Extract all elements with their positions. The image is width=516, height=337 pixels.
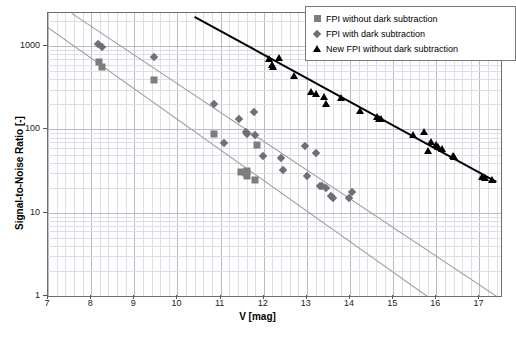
- data-point-series-0: [99, 64, 106, 71]
- data-point-series-0: [254, 142, 261, 149]
- gridline-y-major: [48, 129, 501, 130]
- gridline-y-minor: [48, 71, 501, 72]
- data-point-series-2: [356, 107, 364, 114]
- data-point-series-0: [244, 172, 251, 179]
- x-axis-tick-label: 15: [387, 298, 397, 308]
- data-point-series-2: [420, 128, 428, 135]
- gridline-y-minor: [48, 79, 501, 80]
- data-point-series-2: [275, 54, 283, 61]
- gridline-y-minor: [48, 271, 501, 272]
- x-axis-tick-label: 7: [44, 298, 49, 308]
- gridline-y-minor: [48, 133, 501, 134]
- y-axis-tick-label: 100: [0, 123, 40, 133]
- square-marker-icon: [311, 15, 323, 22]
- data-point-series-2: [269, 63, 277, 70]
- x-axis-tick-mark: [306, 295, 307, 299]
- legend-label: FPI without dark subtraction: [326, 14, 438, 24]
- x-axis-tick-mark: [392, 295, 393, 299]
- x-axis-tick-mark: [133, 295, 134, 299]
- legend-item-new-fpi-without-dark: New FPI without dark subtraction: [311, 41, 510, 56]
- gridline-y-minor: [48, 163, 501, 164]
- x-axis-label: V [mag]: [0, 311, 515, 322]
- data-point-series-2: [290, 72, 298, 79]
- gridline-y-minor: [48, 104, 501, 105]
- gridline-y-minor: [48, 155, 501, 156]
- legend-label: New FPI without dark subtraction: [326, 44, 458, 54]
- legend-item-fpi-with-dark: FPI with dark subtraction: [311, 26, 510, 41]
- data-point-series-2: [377, 115, 385, 122]
- x-axis-tick-label: 16: [430, 298, 440, 308]
- gridline-y-minor: [48, 90, 501, 91]
- x-axis-tick-mark: [90, 295, 91, 299]
- x-axis-tick-mark: [47, 295, 48, 299]
- data-point-series-0: [211, 131, 218, 138]
- gridline-y-minor: [48, 221, 501, 222]
- data-point-series-2: [438, 145, 446, 152]
- data-point-series-2: [312, 90, 320, 97]
- gridline-y-minor: [48, 238, 501, 239]
- data-point-series-2: [337, 94, 345, 101]
- y-axis-tick-label: 1000: [0, 40, 40, 50]
- x-axis-tick-mark: [220, 295, 221, 299]
- data-point-series-2: [481, 174, 489, 181]
- gridline-y-minor: [48, 217, 501, 218]
- data-point-series-2: [488, 176, 496, 183]
- chart-legend: FPI without dark subtraction FPI with da…: [305, 6, 516, 61]
- x-axis-tick-label: 14: [344, 298, 354, 308]
- gridline-y-minor: [48, 256, 501, 257]
- x-axis-tick-mark: [176, 295, 177, 299]
- y-axis-tick-mark: [43, 128, 47, 129]
- x-axis-tick-label: 10: [171, 298, 181, 308]
- legend-label: FPI with dark subtraction: [326, 29, 425, 39]
- data-point-series-0: [150, 77, 157, 84]
- data-point-series-1: [259, 152, 267, 160]
- y-axis-tick-mark: [43, 212, 47, 213]
- data-point-series-1: [311, 149, 319, 157]
- x-axis-tick-label: 9: [131, 298, 136, 308]
- x-axis-tick-mark: [478, 295, 479, 299]
- x-axis-tick-label: 8: [88, 298, 93, 308]
- x-axis-tick-label: 17: [473, 298, 483, 308]
- data-point-series-2: [322, 100, 330, 107]
- y-axis-tick-mark: [43, 295, 47, 296]
- y-axis-tick-mark: [43, 45, 47, 46]
- x-axis-tick-mark: [349, 295, 350, 299]
- triangle-marker-icon: [311, 45, 323, 52]
- data-point-series-0: [252, 176, 259, 183]
- x-axis-tick-label: 12: [258, 298, 268, 308]
- x-axis-tick-mark: [435, 295, 436, 299]
- x-axis-tick-mark: [263, 295, 264, 299]
- data-point-series-1: [250, 108, 258, 116]
- gridline-y-minor: [48, 231, 501, 232]
- diamond-marker-icon: [311, 31, 323, 37]
- y-axis-tick-label: 1: [0, 290, 40, 300]
- data-point-series-2: [450, 153, 458, 160]
- x-axis-tick-label: 13: [301, 298, 311, 308]
- gridline-y-major: [48, 213, 501, 214]
- data-point-series-2: [424, 147, 432, 154]
- gridline-y-minor: [48, 246, 501, 247]
- gridline-y-minor: [48, 226, 501, 227]
- x-axis-tick-label: 11: [215, 298, 224, 308]
- legend-item-fpi-without-dark: FPI without dark subtraction: [311, 11, 510, 26]
- gridline-y-minor: [48, 173, 501, 174]
- y-axis-tick-label: 10: [0, 207, 40, 217]
- data-point-series-2: [409, 131, 417, 138]
- gridline-y-major: [48, 296, 501, 297]
